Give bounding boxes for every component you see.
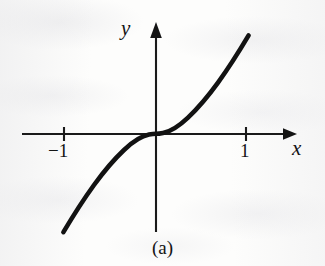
figure-caption: (a) [0,238,325,257]
x-tick-label-negative-one: −1 [48,141,68,160]
y-axis-label: y [121,18,130,39]
y-axis-arrow-icon [150,22,162,38]
x-tick-label-positive-one: 1 [240,141,250,160]
cubic-graph-svg [0,0,325,266]
x-axis-label: x [292,138,301,159]
figure-panel: y x −1 1 (a) [0,0,325,266]
